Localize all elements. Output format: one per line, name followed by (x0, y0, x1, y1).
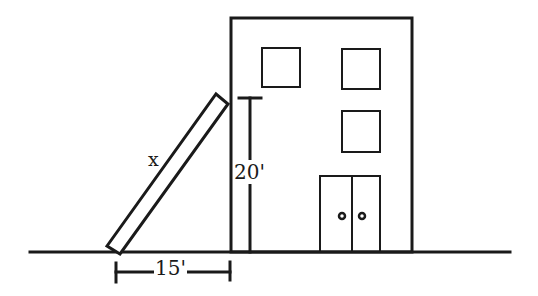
window-top-right (342, 49, 380, 89)
door-knob-right (359, 213, 365, 219)
building (231, 18, 412, 252)
base-distance-label: 15' (154, 258, 187, 278)
door-frame (320, 176, 380, 252)
height-label: 20' (234, 160, 265, 184)
diagram-svg (0, 0, 538, 296)
window-middle-right (342, 111, 380, 152)
ladder (107, 94, 228, 254)
window-top-left (262, 48, 300, 87)
diagram-canvas: x 20' 15' (0, 0, 538, 296)
ladder-length-label: x (148, 150, 159, 169)
door-knob-left (339, 213, 345, 219)
